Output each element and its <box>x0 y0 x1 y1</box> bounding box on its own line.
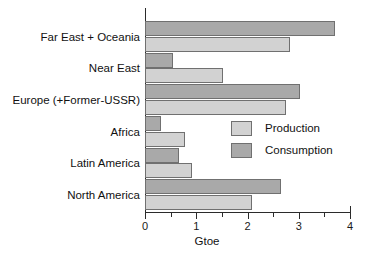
bar-consumption <box>145 53 173 68</box>
legend-label-production: Production <box>265 122 320 134</box>
x-axis-title-label: Gtoe <box>195 235 220 247</box>
bar-chart: 01234 Far East + OceaniaNear EastEurope … <box>0 0 366 258</box>
x-tick-minor <box>273 213 274 217</box>
x-tick-label: 0 <box>142 220 148 232</box>
bar-consumption <box>145 148 179 163</box>
bar-production <box>145 37 290 52</box>
x-tick-minor <box>171 213 172 217</box>
bar-production <box>145 132 185 147</box>
legend-swatch-production <box>231 121 252 136</box>
x-tick-label: 2 <box>244 220 250 232</box>
x-tick-minor <box>222 213 223 217</box>
bar-production <box>145 195 252 210</box>
x-tick-label: 4 <box>347 220 353 232</box>
bar-consumption <box>145 179 281 194</box>
bar-consumption <box>145 84 300 99</box>
category-label: Far East + Oceania <box>0 31 140 43</box>
category-label: North America <box>0 189 140 201</box>
x-tick-minor <box>324 213 325 217</box>
bar-consumption <box>145 21 335 36</box>
x-tick-major <box>350 213 351 219</box>
x-axis-title: Gtoe <box>0 235 366 247</box>
category-label: Africa <box>0 126 140 138</box>
bar-consumption <box>145 116 161 131</box>
x-tick-major <box>145 213 146 219</box>
category-label: Near East <box>0 62 140 74</box>
bar-production <box>145 68 223 83</box>
legend: Production Consumption <box>231 118 333 162</box>
bar-production <box>145 163 192 178</box>
x-axis-end-tick <box>350 206 351 213</box>
category-label: Latin America <box>0 157 140 169</box>
bar-production <box>145 100 286 115</box>
legend-item-consumption: Consumption <box>231 140 333 160</box>
x-tick-label: 3 <box>296 220 302 232</box>
x-tick-major <box>299 213 300 219</box>
legend-item-production: Production <box>231 118 333 138</box>
x-tick-major <box>248 213 249 219</box>
legend-label-consumption: Consumption <box>265 144 333 156</box>
legend-swatch-consumption <box>231 143 252 158</box>
category-label: Europe (+Former-USSR) <box>0 94 140 106</box>
x-tick-label: 1 <box>193 220 199 232</box>
x-tick-major <box>196 213 197 219</box>
